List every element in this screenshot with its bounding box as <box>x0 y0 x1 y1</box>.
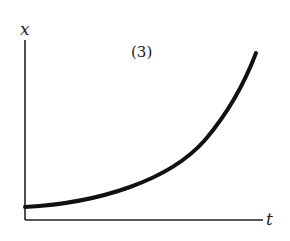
panel-label: (3) <box>131 43 152 61</box>
x-axis-label: t <box>266 209 273 229</box>
motion-graph: x t (3) <box>0 0 290 241</box>
y-axis-label: x <box>20 19 30 39</box>
exponential-curve <box>25 53 256 207</box>
